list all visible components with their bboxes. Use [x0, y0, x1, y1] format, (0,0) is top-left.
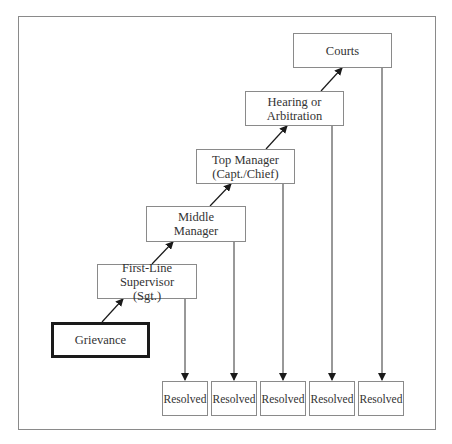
- arrow-top-to-hearing: [266, 126, 287, 149]
- step-grievance: Grievance: [51, 322, 150, 358]
- step-label: Courts: [326, 44, 359, 58]
- outcome-resolved-1: Resolved: [162, 381, 208, 416]
- step-label-line1: Middle: [178, 210, 214, 224]
- outcome-label: Resolved: [262, 392, 305, 406]
- step-label-line1: Hearing or: [268, 95, 322, 109]
- outcome-label: Resolved: [360, 392, 403, 406]
- outcome-resolved-2: Resolved: [211, 381, 257, 416]
- outcome-resolved-3: Resolved: [260, 381, 306, 416]
- step-label-line1: Top Manager: [212, 153, 279, 167]
- step-label-line2: Arbitration: [267, 109, 323, 123]
- outcome-label: Resolved: [164, 392, 207, 406]
- arrow-hearing-to-courts: [321, 68, 342, 91]
- step-middle-manager: Middle Manager: [146, 206, 246, 242]
- step-top-manager: Top Manager (Capt./Chief): [196, 149, 295, 184]
- step-hearing-arbitration: Hearing or Arbitration: [245, 91, 344, 126]
- step-first-line-supervisor: First-Line Supervisor (Sgt.): [97, 264, 197, 299]
- step-label-line2: (Capt./Chief): [212, 167, 278, 181]
- outcome-label: Resolved: [311, 392, 354, 406]
- step-courts: Courts: [293, 33, 392, 68]
- arrow-grievance-to-supervisor: [102, 299, 123, 322]
- step-label-line1: First-Line Supervisor: [98, 261, 196, 289]
- outcome-resolved-4: Resolved: [309, 381, 355, 416]
- step-label-line2: (Sgt.): [133, 289, 161, 303]
- outcome-resolved-5: Resolved: [358, 381, 404, 416]
- arrow-middle-to-top: [210, 184, 231, 206]
- step-label-line2: Manager: [174, 224, 218, 238]
- step-label: Grievance: [75, 333, 126, 347]
- outcome-label: Resolved: [213, 392, 256, 406]
